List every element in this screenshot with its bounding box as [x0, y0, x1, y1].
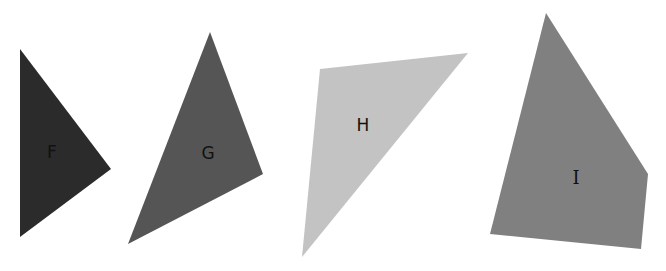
triangle-F: [20, 49, 111, 237]
shape-H: H: [302, 53, 468, 257]
triangle-G: [128, 32, 263, 244]
label-F: F: [47, 142, 57, 162]
shape-I: I: [490, 13, 648, 249]
label-I: I: [572, 167, 579, 188]
triangle-H: [302, 53, 468, 257]
quadrilateral-I: [490, 13, 648, 249]
label-H: H: [357, 115, 370, 135]
diagram-canvas: F G H I: [0, 0, 666, 271]
shape-G: G: [128, 32, 263, 244]
shape-F: F: [20, 49, 111, 237]
label-G: G: [201, 143, 214, 163]
shapes-svg: F G H I: [0, 0, 666, 271]
